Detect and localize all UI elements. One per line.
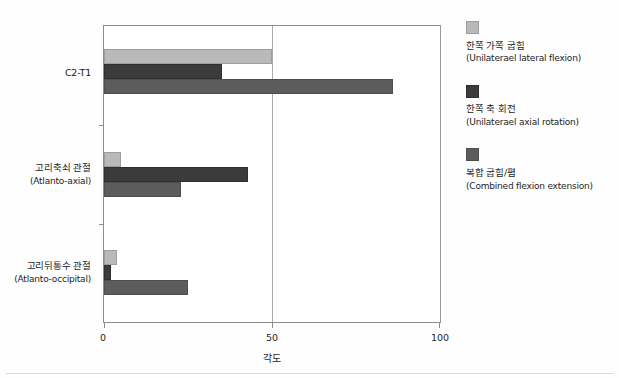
x-tick-100 bbox=[439, 322, 440, 328]
x-tick-0 bbox=[104, 322, 105, 328]
legend-label-combined-flexion-extension-ko: 복합 굽힘/폄 bbox=[466, 167, 616, 180]
y-label-atlanto-occipital: 고리뒤통수 관절 (Atlanto-occipital) bbox=[14, 260, 91, 285]
y-label-atlanto-axial-ko: 고리축쇠 관절 bbox=[30, 162, 91, 175]
legend-swatch-combined-flexion-extension bbox=[466, 148, 479, 161]
chart-legend: 한쪽 가쪽 굽힘 (Unilaterael lateral flexion) 한… bbox=[466, 18, 616, 209]
y-label-atlanto-axial: 고리축쇠 관절 (Atlanto-axial) bbox=[30, 162, 91, 187]
legend-text-axial-rotation: 한쪽 축 회전 (Unilaterael axial rotation) bbox=[466, 103, 616, 128]
x-tick-label-100: 100 bbox=[431, 332, 449, 343]
gridline-50 bbox=[272, 26, 273, 322]
plot-area bbox=[103, 25, 441, 323]
bar-c2t1-combined-flexion-extension bbox=[104, 79, 393, 94]
legend-text-lateral-flexion: 한쪽 가쪽 굽힘 (Unilaterael lateral flexion) bbox=[466, 40, 616, 65]
bar-c2t1-lateral-flexion bbox=[104, 49, 272, 64]
bar-atlanto-axial-combined-flexion-extension bbox=[104, 182, 181, 197]
legend-label-combined-flexion-extension-en: (Combined flexion extension) bbox=[466, 180, 616, 192]
legend-item-axial-rotation: 한쪽 축 회전 (Unilaterael axial rotation) bbox=[466, 82, 616, 129]
chart-figure: C2-T1 고리축쇠 관절 (Atlanto-axial) 고리뒤통수 관절 (… bbox=[0, 0, 619, 378]
x-tick-label-0: 0 bbox=[100, 332, 106, 343]
legend-item-combined-flexion-extension: 복합 굽힘/폄 (Combined flexion extension) bbox=[466, 145, 616, 192]
legend-item-lateral-flexion: 한쪽 가쪽 굽힘 (Unilaterael lateral flexion) bbox=[466, 18, 616, 65]
legend-label-lateral-flexion-en: (Unilaterael lateral flexion) bbox=[466, 52, 616, 64]
x-axis-title: 각도 bbox=[103, 350, 441, 365]
legend-label-axial-rotation-ko: 한쪽 축 회전 bbox=[466, 103, 616, 116]
y-label-atlanto-axial-en: (Atlanto-axial) bbox=[30, 175, 91, 187]
legend-label-lateral-flexion-ko: 한쪽 가쪽 굽힘 bbox=[466, 40, 616, 53]
bar-atlanto-occipital-combined-flexion-extension bbox=[104, 280, 188, 295]
x-tick-50 bbox=[272, 322, 273, 328]
legend-text-combined-flexion-extension: 복합 굽힘/폄 (Combined flexion extension) bbox=[466, 167, 616, 192]
bar-atlanto-occipital-axial-rotation bbox=[104, 265, 111, 280]
legend-label-axial-rotation-en: (Unilaterael axial rotation) bbox=[466, 116, 616, 128]
y-axis-labels: C2-T1 고리축쇠 관절 (Atlanto-axial) 고리뒤통수 관절 (… bbox=[0, 0, 97, 378]
page-bottom-rule bbox=[6, 373, 613, 374]
y-label-atlanto-occipital-en: (Atlanto-occipital) bbox=[14, 273, 91, 285]
y-tick-2 bbox=[99, 224, 104, 225]
bar-atlanto-axial-lateral-flexion bbox=[104, 152, 121, 167]
x-tick-label-50: 50 bbox=[266, 332, 278, 343]
y-label-atlanto-occipital-ko: 고리뒤통수 관절 bbox=[14, 260, 91, 273]
y-tick-1 bbox=[99, 125, 104, 126]
bar-atlanto-occipital-lateral-flexion bbox=[104, 250, 117, 265]
y-label-c2-t1: C2-T1 bbox=[65, 67, 91, 80]
y-label-c2-t1-ko: C2-T1 bbox=[65, 67, 91, 80]
legend-swatch-axial-rotation bbox=[466, 85, 479, 98]
bar-atlanto-axial-axial-rotation bbox=[104, 167, 248, 182]
legend-swatch-lateral-flexion bbox=[466, 21, 479, 34]
bar-c2t1-axial-rotation bbox=[104, 64, 222, 79]
